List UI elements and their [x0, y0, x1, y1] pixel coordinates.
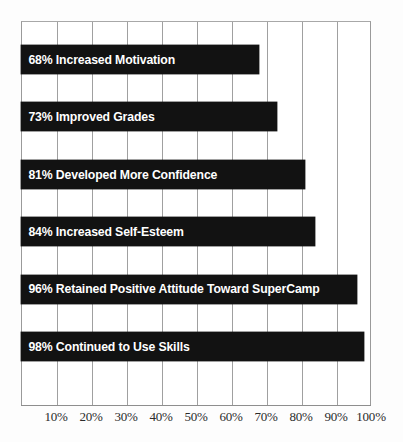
bar-1[interactable]: 68% Increased Motivation	[21, 45, 259, 74]
x-tick-label: 40%	[149, 409, 172, 425]
bar-label: 98% Continued to Use Skills	[21, 340, 190, 353]
bar-label: 96% Retained Positive Attitude Toward Su…	[21, 282, 320, 295]
bar-6[interactable]: 98% Continued to Use Skills	[21, 332, 364, 361]
bar-label: 84% Increased Self-Esteem	[21, 225, 184, 238]
bar-label: 68% Increased Motivation	[21, 53, 175, 66]
x-tick-label: 10%	[44, 409, 67, 425]
x-tick-label: 80%	[289, 409, 312, 425]
bar-3[interactable]: 81% Developed More Confidence	[21, 160, 305, 189]
bar-4[interactable]: 84% Increased Self-Esteem	[21, 217, 315, 246]
x-axis-line	[21, 405, 371, 406]
x-tick-label: 90%	[324, 409, 347, 425]
bar-label: 73% Improved Grades	[21, 110, 155, 123]
bar-row[interactable]: 73% Improved Grades	[21, 102, 277, 131]
x-tick-label: 100%	[356, 409, 386, 425]
bar-row[interactable]: 96% Retained Positive Attitude Toward Su…	[21, 275, 357, 304]
x-tick-label: 60%	[219, 409, 242, 425]
bar-chart: 68% Increased Motivation73% Improved Gra…	[0, 0, 403, 442]
bar-row[interactable]: 84% Increased Self-Esteem	[21, 217, 315, 246]
bar-label: 81% Developed More Confidence	[21, 168, 217, 181]
bars-layer: 68% Increased Motivation73% Improved Gra…	[21, 21, 371, 406]
x-tick-label: 20%	[79, 409, 102, 425]
x-axis-tick-labels: 10%20%30%40%50%60%70%80%90%100%	[0, 409, 403, 431]
bar-row[interactable]: 98% Continued to Use Skills	[21, 332, 364, 361]
bar-row[interactable]: 68% Increased Motivation	[21, 45, 259, 74]
bar-5[interactable]: 96% Retained Positive Attitude Toward Su…	[21, 275, 357, 304]
x-tick-label: 70%	[254, 409, 277, 425]
x-tick-label: 30%	[114, 409, 137, 425]
bar-2[interactable]: 73% Improved Grades	[21, 102, 277, 131]
bar-row[interactable]: 81% Developed More Confidence	[21, 160, 305, 189]
x-tick-label: 50%	[184, 409, 207, 425]
